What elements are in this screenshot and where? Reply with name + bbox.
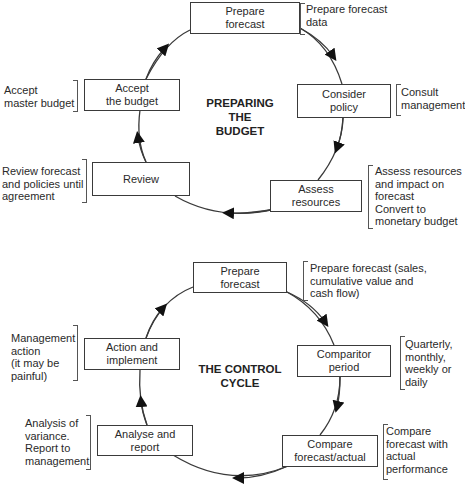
step-box-compare-forecast-actual: Compare forecast/actual [282,435,378,467]
note-prepare-forecast-sales: Prepare forecast (sales, cumulative valu… [310,262,427,300]
note-analysis-of-variance: Analysis of variance. Report to manageme… [25,417,89,467]
note-compare-forecast-with-actual: Compare forecast with actual performance [386,425,448,475]
note-quarterly-monthly: Quarterly, monthly, weekly or daily [405,338,452,388]
arc-prepare-to-comparitor [287,292,334,345]
step-box-prepare-forecast: Prepare forecast [190,2,300,34]
arc-prepare-to-consider [300,28,342,84]
arc-consider-to-assess [318,118,343,180]
note-bracket [82,159,87,203]
step-box-consider-policy: Consider policy [297,84,391,118]
arc-action-to-prepare [146,287,193,338]
note-management-action: Management action (it may be painful) [11,332,75,382]
note-bracket [73,325,78,381]
note-bracket [73,80,78,112]
note-bracket [303,261,308,301]
step-box-action-implement: Action and implement [84,338,180,370]
note-assess-resources: Assess resources and impact on forecast … [375,165,462,228]
arc-accept-to-prepare [146,30,190,79]
note-consult-management: Consult management [401,86,465,111]
note-prepare-forecast-data: Prepare forecast data [306,3,387,28]
note-review-forecast: Review forecast and policies until agree… [2,165,83,203]
step-box-assess-resources: Assess resources [270,180,362,212]
step-box-prepare-forecast-control: Prepare forecast [193,262,287,293]
step-box-analyse-report: Analyse and report [97,425,193,456]
arc-analyse-to-action [140,370,147,425]
note-bracket [300,3,305,35]
step-box-comparitor-period: Comparitor period [297,345,391,377]
note-bracket [368,165,373,229]
cycle-title-preparing-budget: PREPARING THE BUDGET [195,96,285,138]
arc-assess-to-review [175,196,275,213]
note-accept-master-budget: Accept master budget [4,84,74,109]
step-box-accept-budget: Accept the budget [84,79,180,111]
cycle-title-control-cycle: THE CONTROL CYCLE [190,362,290,390]
step-box-review: Review [92,162,190,196]
note-bracket [86,415,91,470]
